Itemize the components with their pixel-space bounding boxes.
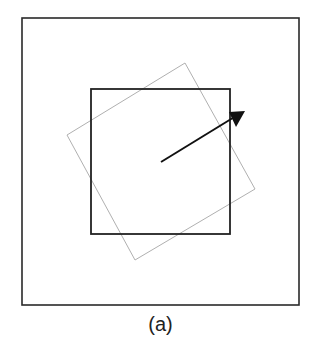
diagram-canvas: [0, 0, 321, 362]
outer-frame: [22, 18, 299, 305]
inner-square: [91, 89, 230, 234]
direction-arrow: [161, 116, 236, 162]
figure-caption: (a): [0, 313, 321, 336]
